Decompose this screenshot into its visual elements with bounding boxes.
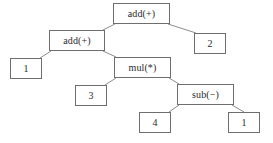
tree-node-leaf-2: 2 [194, 33, 226, 54]
tree-node-label: 1 [242, 117, 247, 127]
tree-node-label: 3 [89, 90, 94, 100]
tree-node-label: 1 [24, 63, 29, 73]
expression-tree-figure: add(+)add(+)21mul(*)3sub(−)41 [0, 0, 273, 143]
tree-edge-add-2-to-leaf-1a [40, 51, 51, 58]
tree-node-label: mul(*) [129, 62, 157, 72]
tree-node-root-add: add(+) [113, 3, 170, 24]
tree-node-label: add(+) [128, 8, 155, 18]
tree-node-leaf-4: 4 [139, 112, 171, 133]
tree-node-sub: sub(−) [177, 84, 234, 105]
tree-node-leaf-1a: 1 [10, 58, 42, 79]
tree-node-label: sub(−) [192, 89, 219, 99]
tree-node-label: 2 [208, 38, 213, 48]
tree-node-label: 4 [153, 117, 158, 127]
tree-edge-mul-to-leaf-3 [105, 78, 116, 85]
tree-edge-sub-to-leaf-4 [169, 105, 179, 112]
tree-node-label: add(+) [63, 35, 90, 45]
tree-edge-sub-to-leaf-1b [232, 105, 244, 112]
tree-node-mul: mul(*) [114, 57, 171, 78]
tree-node-leaf-3: 3 [75, 85, 107, 106]
tree-node-leaf-1b: 1 [228, 112, 260, 133]
tree-edge-root-add-to-leaf-2 [168, 24, 196, 33]
tree-node-add-2: add(+) [49, 30, 105, 51]
